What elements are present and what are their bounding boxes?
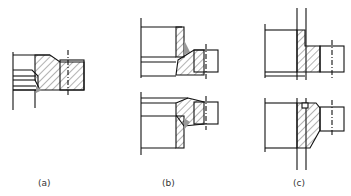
figure-b-bottom: [141, 92, 218, 155]
label-b: (b): [162, 178, 175, 188]
label-a: (a): [38, 178, 51, 188]
technical-drawing: [0, 0, 351, 196]
label-c: (c): [293, 178, 305, 188]
figure-a: [13, 50, 84, 110]
figure-c-bottom: [265, 98, 344, 170]
figure-c-top: [265, 8, 344, 80]
figure-b-top: [141, 18, 218, 80]
